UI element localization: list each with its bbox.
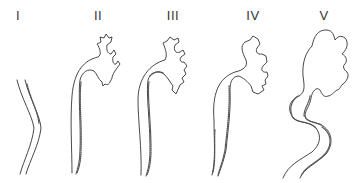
stage-4-bud <box>212 36 268 176</box>
stage-1-tube <box>17 80 41 174</box>
stage-3-bud <box>138 37 187 176</box>
development-stages-diagram <box>0 0 363 183</box>
stage-5-kidney <box>283 30 348 178</box>
stage-2-bud <box>71 34 120 174</box>
